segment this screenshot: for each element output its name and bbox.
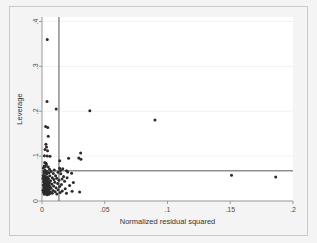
y-tick-label-0: 0 [32,199,39,203]
data-point [49,155,52,158]
data-point [153,119,156,122]
data-point [230,174,233,177]
x-tick-label-1: .05 [100,206,110,213]
y-tick-label-4: .4 [32,18,39,24]
x-tick-label-0: 0 [40,206,44,213]
data-point [58,159,61,162]
data-point [71,190,74,193]
data-point [53,181,56,184]
y-axis-title: Leverage [15,93,24,124]
x-axis-title: Normalized residual squared [120,217,215,226]
x-tick-label-3: .15 [225,206,235,213]
data-point [61,178,64,181]
data-point [68,184,71,187]
data-point [52,172,55,175]
data-point [55,192,58,195]
data-point [63,180,66,183]
data-point [46,193,49,196]
data-point [57,179,60,182]
data-point [59,169,62,172]
data-point [43,154,46,157]
data-point [59,172,62,175]
data-point [46,100,49,103]
x-tick-label-2: .1 [165,206,171,213]
data-point [88,109,91,112]
data-point [51,192,54,195]
data-point [59,191,62,194]
data-point [52,178,55,181]
data-point [55,108,58,111]
data-point [47,135,50,138]
plot-area-background [42,17,293,201]
data-point [57,171,60,174]
data-point [43,193,46,196]
data-point [66,176,69,179]
data-point [46,38,49,41]
data-point [46,126,49,129]
data-point [67,157,70,160]
data-point [66,171,69,174]
leverage-plot-figure: 0.1.2.3.40.05.1.15.2Normalized residual … [0,0,317,243]
data-point [70,172,73,175]
y-tick-label-1: .1 [32,153,39,159]
data-point [57,188,60,191]
data-point [64,187,67,190]
y-tick-label-2: .2 [32,108,39,114]
data-point [58,185,61,188]
data-point [79,158,82,161]
y-tick-label-3: .3 [32,63,39,69]
scatter-plot-canvas: 0.1.2.3.40.05.1.15.2Normalized residual … [0,0,317,243]
data-point [46,155,49,158]
data-point [53,169,56,172]
data-point [44,143,47,146]
data-point [78,191,81,194]
data-point [274,176,277,179]
data-point [65,192,68,195]
data-point [52,184,55,187]
data-point [56,182,59,185]
x-tick-label-4: .2 [290,206,296,213]
data-point [46,149,49,152]
data-point [79,151,82,154]
data-point [72,181,75,184]
data-point [62,175,65,178]
